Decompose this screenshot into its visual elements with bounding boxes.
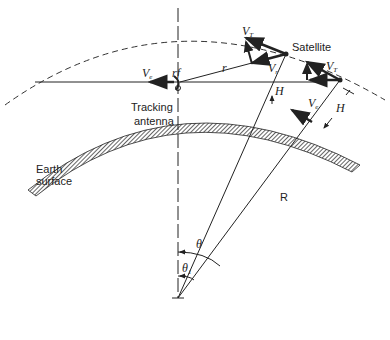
satellite-tracking-diagram: Satellite Tracking antenna Earth surface… xyxy=(0,0,390,340)
r-label: r xyxy=(222,61,227,75)
H-label-1: H xyxy=(274,84,285,98)
vt-label-2: VT xyxy=(326,59,338,74)
ve-label-surface: Ve xyxy=(308,96,318,111)
theta1-label: θ1 xyxy=(182,261,191,276)
vector-triangle-1 xyxy=(246,38,286,64)
radius-to-subsatellite xyxy=(178,54,286,298)
surface-label: surface xyxy=(36,175,72,187)
theta-label: θ xyxy=(196,237,202,251)
earth-surface-band xyxy=(28,123,360,196)
ve-label-antenna: Ve xyxy=(142,66,152,81)
earth-label: Earth xyxy=(36,163,62,175)
radius-R xyxy=(178,80,340,298)
satellite-point xyxy=(284,52,289,57)
rf-label: rf xyxy=(172,66,182,80)
vr-label: Vr xyxy=(268,61,278,76)
vt-label-1: VT xyxy=(242,24,254,39)
satellite-label: Satellite xyxy=(292,41,331,53)
H-label-2: H xyxy=(335,101,346,115)
ve-arrow-surface xyxy=(292,110,312,122)
tracking-label: Tracking xyxy=(131,101,173,113)
R-label: R xyxy=(280,191,288,203)
antenna-label: antenna xyxy=(134,115,175,127)
